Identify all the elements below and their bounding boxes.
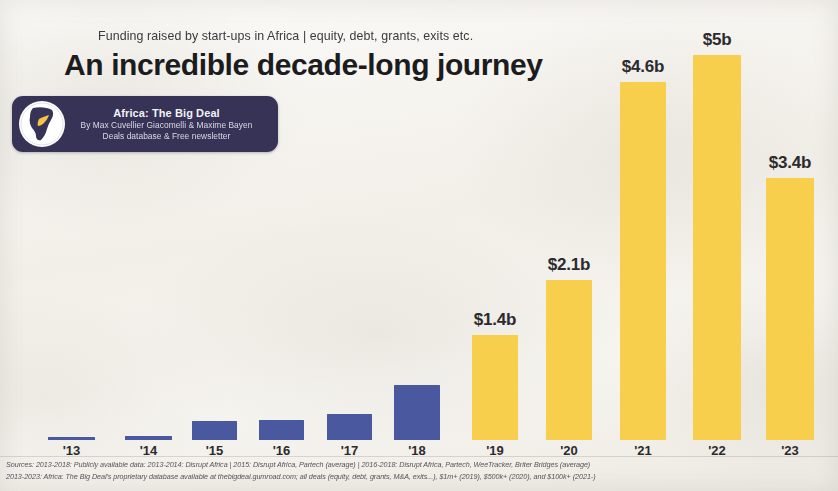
bar (48, 437, 95, 440)
bar-group: '17 (327, 0, 372, 440)
bar (327, 414, 372, 440)
bar-group: '14 (125, 0, 172, 440)
bar (693, 55, 741, 440)
bar-group: '15 (192, 0, 237, 440)
bar (259, 420, 304, 440)
bar-group: $1.4b'19 (472, 0, 518, 440)
bar (192, 421, 237, 440)
infographic-page: Funding raised by start-ups in Africa | … (0, 0, 838, 491)
bar-value-label: $4.6b (622, 57, 664, 77)
sources-line-1: Sources: 2013-2018: Publicly available d… (6, 459, 832, 471)
bar (766, 178, 814, 440)
sources-line-2: 2013-2023: Africa: The Big Deal's propri… (6, 471, 832, 483)
sources-note: Sources: 2013-2018: Publicly available d… (6, 459, 832, 482)
bar-group: $3.4b'23 (766, 0, 814, 440)
bar-group: $2.1b'20 (546, 0, 592, 440)
bar-value-label: $5b (703, 30, 732, 50)
bar-group: $4.6b'21 (620, 0, 666, 440)
bar-chart: '13'14'15'16'17'18$1.4b'19$2.1b'20$4.6b'… (0, 0, 838, 491)
bar (394, 385, 440, 440)
bar-group: '16 (259, 0, 304, 440)
bar-value-label: $3.4b (769, 153, 811, 173)
bar-group: '18 (394, 0, 440, 440)
bar (125, 436, 172, 440)
bar (472, 335, 518, 440)
bar-value-label: $1.4b (474, 310, 516, 330)
bar (546, 280, 592, 440)
bar (620, 82, 666, 440)
bar-value-label: $2.1b (548, 255, 590, 275)
bar-group: $5b'22 (693, 0, 741, 440)
bar-group: '13 (48, 0, 95, 440)
sources-divider (0, 456, 838, 457)
